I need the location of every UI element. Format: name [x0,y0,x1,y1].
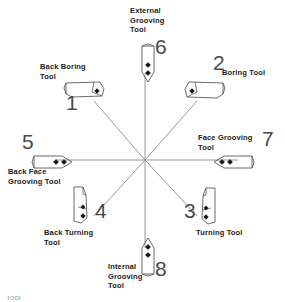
cutting-insert-tip [145,70,150,75]
cutting-insert-inner [145,62,150,67]
tool-body [74,187,87,223]
footer-cutoff-artifact: Tool [0,296,285,302]
cutting-insert-tip [219,159,224,164]
footer-artifact-text: Tool [0,296,285,302]
tool-number-3: 3 [184,200,196,221]
tool-label-7: Face Grooving Tool [198,133,274,152]
tool-glyph-4 [74,187,87,223]
tool-glyph-2 [185,82,225,98]
tool-body [202,188,215,224]
cutting-insert [95,89,100,94]
tool-glyph-6 [142,44,154,82]
cutting-insert-lower [81,214,86,219]
cutting-insert-inner [227,159,232,164]
cutting-insert-inner [53,159,58,164]
tool-number-5: 5 [22,131,34,152]
cutting-insert-lower [204,215,209,220]
tool-label-2: Boring Tool [222,68,282,78]
tool-label-3: Turning Tool [196,228,260,238]
tool-label-6: External Grooving Tool [130,6,188,35]
tool-label-4: Back Turning Tool [44,228,118,247]
tool-label-1: Back Boring Tool [40,62,106,81]
cutting-insert-tip [61,159,66,164]
cutting-insert-inner [145,252,150,257]
cutting-insert-tip [145,244,150,249]
tool-number-4: 4 [95,200,107,221]
tool-number-6: 6 [155,36,167,57]
tool-glyph-3 [202,188,215,224]
tool-label-5: Back Face Grooving Tool [8,167,86,186]
tool-label-8: Internal Grooving Tool [108,262,162,291]
cutting-insert [190,89,195,94]
tool-number-1: 1 [66,92,78,113]
tool-orientation-diagram: 1Back Boring Tool2Boring Tool3Turning To… [0,0,285,302]
tool-glyph-7 [214,156,254,168]
